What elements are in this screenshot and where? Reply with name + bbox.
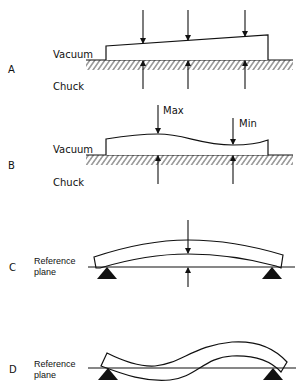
reference-label-d-line1: Reference xyxy=(34,359,76,369)
chuck-label-a: Chuck xyxy=(53,81,84,92)
chuck-surface-a xyxy=(86,60,293,70)
panel-letter-b: B xyxy=(8,160,15,171)
panel-letter-d: D xyxy=(9,364,17,375)
support-triangle-icon xyxy=(262,267,282,279)
wafer-measurement-diagram: A Vacuum Chuck B Vacuum Chuck Max Min xyxy=(0,0,306,391)
wafer-warped xyxy=(101,342,287,381)
reference-label-d-line2: plane xyxy=(34,370,56,380)
panel-c: C Reference plane xyxy=(9,220,295,287)
reference-label-c-line1: Reference xyxy=(34,256,76,266)
chuck-surface-b xyxy=(86,155,293,165)
panel-letter-a: A xyxy=(8,64,15,75)
min-label: Min xyxy=(239,118,257,129)
panel-d: D Reference plane xyxy=(9,342,296,381)
vacuum-label-a: Vacuum xyxy=(53,49,93,60)
panel-b: B Vacuum Chuck Max Min xyxy=(8,105,293,188)
panel-letter-c: C xyxy=(9,262,16,273)
support-triangle-icon xyxy=(97,267,117,279)
vacuum-label-b: Vacuum xyxy=(53,144,93,155)
panel-a: A Vacuum Chuck xyxy=(8,10,293,92)
wafer-wavy xyxy=(106,134,268,155)
reference-label-c-line2: plane xyxy=(34,267,56,277)
wafer-tapered xyxy=(106,35,268,60)
max-label: Max xyxy=(163,105,184,116)
chuck-label-b: Chuck xyxy=(53,177,84,188)
